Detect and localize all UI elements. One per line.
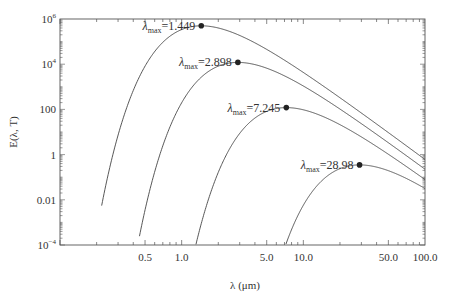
spectral-curve (102, 26, 425, 206)
plot-frame (60, 19, 425, 245)
y-axis-title: E(λ, T) (7, 116, 20, 148)
y-tick-label: 10−4 (38, 238, 57, 251)
spectral-curve (196, 108, 425, 245)
spectral-curve (286, 165, 425, 244)
x-axis-title: λ (μm) (230, 279, 260, 292)
y-tick-label: 100 (40, 103, 57, 115)
y-tick-label: 1 (51, 149, 57, 161)
lambda-max-label: λmax=2.898 (178, 55, 232, 71)
blackbody-spectrum-chart: 0.51.05.010.050.0100.010610410010.0110−4… (0, 0, 457, 298)
lambda-max-label: λmax=1.449 (141, 19, 195, 35)
x-tick-label: 1.0 (175, 251, 189, 263)
x-tick-label: 5.0 (260, 251, 274, 263)
axis-labels: 0.51.05.010.050.0100.010610410010.0110−4… (7, 12, 438, 292)
x-tick-label: 100.0 (413, 251, 438, 263)
axis-ticks (60, 19, 425, 245)
lambda-max-label: λmax=7.245 (227, 101, 281, 117)
lambda-max-label: λmax=28.98 (300, 158, 354, 174)
y-tick-label: 104 (42, 57, 57, 70)
x-tick-label: 10.0 (294, 251, 314, 263)
y-tick-label: 0.01 (37, 194, 56, 206)
x-tick-label: 0.5 (138, 251, 152, 263)
peak-marker (284, 105, 290, 111)
peak-marker (357, 162, 363, 168)
spectral-curve (139, 62, 425, 236)
peak-marker (235, 60, 241, 66)
x-tick-label: 50.0 (379, 251, 399, 263)
y-tick-label: 106 (42, 12, 57, 25)
chart-canvas: 0.51.05.010.050.0100.010610410010.0110−4… (0, 0, 457, 298)
spectral-curves (102, 23, 425, 244)
peak-marker (198, 23, 204, 29)
plot-area (60, 19, 425, 245)
